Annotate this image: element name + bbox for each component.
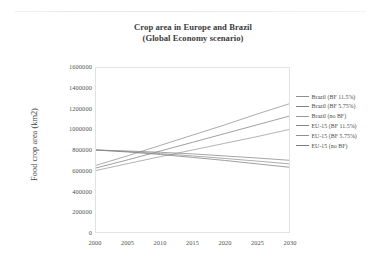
legend-item-label: Brazil (BF 11.5%) (312, 94, 356, 100)
plot-area (95, 67, 290, 233)
chart-legend: Brazil (BF 11.5%)Brazil (BF 5.75%)Brazil… (296, 92, 373, 151)
y-axis-tick-label: 800000 (30, 146, 92, 153)
legend-line-swatch (296, 106, 309, 107)
legend-item: Brazil (no BF) (296, 112, 373, 121)
legend-line-swatch (296, 96, 309, 97)
legend-item-label: Brazil (no BF) (312, 113, 347, 119)
legend-item: EU-15 (BF 5.75%) (296, 131, 373, 140)
y-axis-tick-label: 400000 (30, 188, 92, 195)
legend-line-swatch (296, 145, 309, 146)
chart-title: Crop area in Europe and Brazil (Global E… (95, 22, 291, 45)
chart-title-line-1: Crop area in Europe and Brazil (134, 22, 252, 32)
y-axis-tick-labels: 0200000400000600000800000100000012000001… (28, 0, 92, 274)
legend-line-swatch (296, 116, 309, 117)
series-line (96, 116, 289, 168)
legend-line-swatch (296, 125, 309, 126)
legend-item: Brazil (BF 5.75%) (296, 102, 373, 111)
legend-line-swatch (296, 135, 309, 136)
legend-item-label: EU-15 (BF 5.75%) (312, 133, 357, 139)
x-axis-tick-label: 2030 (270, 239, 310, 246)
legend-item: Brazil (BF 11.5%) (296, 92, 373, 101)
legend-item-label: EU-15 (BF 11.5%) (312, 123, 357, 129)
legend-item: EU-15 (no BF) (296, 141, 373, 150)
series-line (96, 150, 289, 167)
y-axis-tick-label: 1600000 (30, 63, 92, 70)
y-axis-tick-label: 1000000 (30, 125, 92, 132)
legend-item-label: EU-15 (no BF) (312, 143, 348, 149)
plot-lines (96, 68, 289, 232)
y-axis-tick-label: 200000 (30, 208, 92, 215)
legend-item-label: Brazil (BF 5.75%) (312, 103, 356, 109)
chart-title-line-2: (Global Economy scenario) (95, 33, 291, 44)
y-axis-tick-label: 1400000 (30, 84, 92, 91)
chart-figure: Crop area in Europe and Brazil (Global E… (0, 0, 373, 274)
y-axis-tick-label: 1200000 (30, 105, 92, 112)
y-axis-tick-label: 0 (30, 229, 92, 236)
x-axis-tick-labels: 2000200520102015202020252030 (0, 239, 373, 251)
y-axis-tick-label: 600000 (30, 167, 92, 174)
legend-item: EU-15 (BF 11.5%) (296, 121, 373, 130)
